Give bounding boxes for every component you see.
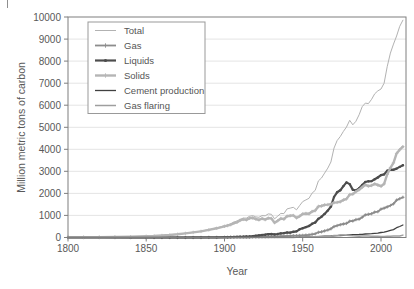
marker-dot-liquids <box>302 227 304 229</box>
marker-dot-liquids <box>286 231 288 233</box>
marker-dot-liquids <box>289 231 291 233</box>
marker-dot-liquids <box>308 225 310 227</box>
marker-dot-liquids <box>395 167 397 169</box>
marker-dot-liquids <box>345 181 347 183</box>
carbon-emissions-line-chart: 0100020003000400050006000700080009000100… <box>0 0 414 289</box>
marker-dot-liquids <box>323 213 325 215</box>
y-tick-label: 5000 <box>39 122 62 133</box>
marker-dot-liquids <box>258 234 260 236</box>
marker-dot-liquids <box>364 181 366 183</box>
marker-plus-gas <box>307 233 310 236</box>
marker-plus-gas <box>310 233 313 236</box>
marker-dot-liquids <box>314 221 316 223</box>
legend-label-total: Total <box>124 25 144 36</box>
x-tick-label: 1900 <box>213 243 236 254</box>
x-tick-label: 1800 <box>57 243 80 254</box>
legend-label-gas-flaring: Gas flaring <box>124 100 170 111</box>
legend-label-cement-production: Cement production <box>124 85 204 96</box>
marker-dot-liquids <box>392 169 394 171</box>
marker-dot-liquids <box>270 233 272 235</box>
marker-dot-liquids <box>311 223 313 225</box>
series-line-solids <box>68 147 403 238</box>
marker-dot-liquids <box>261 234 263 236</box>
marker-dot-liquids <box>380 174 382 176</box>
marker-dot-liquids <box>342 185 344 187</box>
marker-dot-liquids <box>292 231 294 233</box>
y-axis-title: Million metric tons of carbon <box>15 18 28 238</box>
marker-dot-liquids <box>295 230 297 232</box>
marker-dot-liquids <box>264 234 266 236</box>
marker-dot-liquids <box>320 216 322 218</box>
marker-dot-liquids <box>298 228 300 230</box>
y-tick-label: 1000 <box>39 210 62 221</box>
marker-dot-liquids <box>277 233 279 235</box>
marker-dot-liquids <box>280 232 282 234</box>
marker-dot-liquids <box>267 233 269 235</box>
x-tick-label: 1950 <box>292 243 315 254</box>
legend-label-liquids: Liquids <box>124 55 154 66</box>
marker-dot-liquids <box>327 209 329 211</box>
marker-dot-liquids <box>339 189 341 191</box>
marker-dot-liquids <box>283 232 285 234</box>
marker-dot-liquids <box>336 191 338 193</box>
marker-dot-liquids <box>349 183 351 185</box>
x-tick-label: 1850 <box>135 243 158 254</box>
y-tick-label: 0 <box>55 232 61 243</box>
marker-dot-liquids <box>370 180 372 182</box>
x-axis-title: Year <box>137 265 337 279</box>
marker-dot-liquids <box>402 164 404 166</box>
marker-dot-liquids <box>377 176 379 178</box>
y-tick-label: 3000 <box>39 166 62 177</box>
marker-dot-liquids <box>367 180 369 182</box>
y-tick-label: 6000 <box>39 100 62 111</box>
marker-dot-liquids <box>399 166 401 168</box>
y-tick-label: 9000 <box>39 34 62 45</box>
series-line-gas <box>68 197 403 237</box>
y-tick-label: 10000 <box>33 12 61 23</box>
legend-label-solids: Solids <box>124 70 150 81</box>
legend-marker-liquids <box>104 59 107 62</box>
series-line-liquids <box>68 165 403 237</box>
x-tick-label: 2000 <box>370 243 393 254</box>
figure-page: 0100020003000400050006000700080009000100… <box>0 0 414 289</box>
marker-dot-liquids <box>317 218 319 220</box>
y-tick-label: 4000 <box>39 144 62 155</box>
marker-dot-liquids <box>333 196 335 198</box>
y-tick-label: 2000 <box>39 188 62 199</box>
marker-dot-liquids <box>383 173 385 175</box>
y-tick-label: 8000 <box>39 56 62 67</box>
marker-dot-liquids <box>273 233 275 235</box>
marker-dot-liquids <box>305 226 307 228</box>
marker-dot-liquids <box>352 189 354 191</box>
marker-dot-liquids <box>374 178 376 180</box>
marker-dot-liquids <box>255 235 257 237</box>
y-tick-label: 7000 <box>39 78 62 89</box>
legend-label-gas: Gas <box>124 40 142 51</box>
